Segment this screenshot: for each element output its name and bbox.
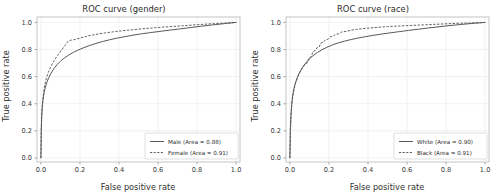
x-tick-label: 0.0 — [36, 166, 47, 174]
x-tick-label: 0.4 — [114, 166, 125, 174]
legend-label-male: Male (Area = 0.88) — [168, 139, 221, 145]
chart-title: ROC curve (race) — [337, 4, 409, 14]
x-tick-label: 0.0 — [285, 166, 296, 174]
chart-panel-gender: ROC curve (gender) 0.00.20.40.60.81.00.0… — [0, 0, 248, 196]
y-tick-label: 0.2 — [22, 127, 33, 135]
y-tick-label: 0.0 — [22, 154, 33, 162]
x-tick-label: 0.6 — [153, 166, 164, 174]
y-tick-label: 0.8 — [271, 46, 282, 54]
roc-curves-figure: ROC curve (gender) 0.00.20.40.60.81.00.0… — [0, 0, 497, 196]
x-axis-label: False positive rate — [350, 182, 425, 192]
y-tick-label: 0.2 — [271, 127, 282, 135]
x-tick-label: 1.0 — [480, 166, 491, 174]
legend-label-white: White (Area = 0.90) — [417, 139, 473, 145]
chart-svg-race: ROC curve (race) 0.00.20.40.60.81.00.00.… — [249, 0, 497, 196]
x-tick-label: 1.0 — [231, 166, 242, 174]
x-tick-label: 0.8 — [192, 166, 203, 174]
x-tick-label: 0.2 — [75, 166, 86, 174]
y-tick-label: 0.8 — [22, 46, 33, 54]
x-axis-label: False positive rate — [101, 182, 176, 192]
x-tick-label: 0.6 — [402, 166, 413, 174]
legend-label-female: Female (Area = 0.91) — [168, 150, 228, 156]
chart-legend[interactable]: Male (Area = 0.88)Female (Area = 0.91) — [145, 133, 238, 159]
y-tick-label: 0.0 — [271, 154, 282, 162]
y-axis-label: True positive rate — [1, 50, 11, 122]
y-tick-label: 0.4 — [22, 100, 33, 108]
chart-legend[interactable]: White (Area = 0.90)Black (Area = 0.91) — [394, 133, 487, 159]
x-tick-label: 0.2 — [324, 166, 335, 174]
y-tick-label: 0.4 — [271, 100, 282, 108]
chart-title: ROC curve (gender) — [82, 4, 165, 14]
legend-label-black: Black (Area = 0.91) — [417, 150, 472, 156]
y-tick-label: 1.0 — [22, 19, 33, 27]
y-axis-label: True positive rate — [250, 50, 260, 122]
y-tick-label: 0.6 — [22, 73, 33, 81]
x-tick-label: 0.4 — [363, 166, 374, 174]
y-tick-label: 0.6 — [271, 73, 282, 81]
y-tick-label: 1.0 — [271, 19, 282, 27]
chart-svg-gender: ROC curve (gender) 0.00.20.40.60.81.00.0… — [0, 0, 248, 196]
x-tick-label: 0.8 — [441, 166, 452, 174]
chart-panel-race: ROC curve (race) 0.00.20.40.60.81.00.00.… — [249, 0, 497, 196]
